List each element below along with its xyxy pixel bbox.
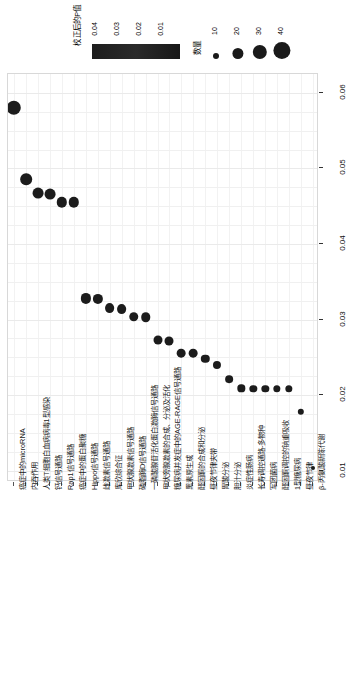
data-point bbox=[44, 189, 55, 200]
size-legend-label: 30 bbox=[255, 18, 265, 44]
data-point bbox=[93, 294, 103, 304]
x-axis-category-label: 军团菌病 bbox=[267, 462, 278, 490]
gridline-horizontal bbox=[8, 376, 317, 377]
y-axis-tick-mark bbox=[319, 167, 323, 168]
gridline-vertical bbox=[62, 74, 63, 480]
x-axis-category-label: 糖尿病并发症中的AGE-RAGE信号通路 bbox=[171, 367, 182, 490]
size-legend-dot bbox=[232, 48, 243, 59]
data-point bbox=[285, 385, 292, 392]
gridline-horizontal bbox=[8, 168, 317, 169]
gridline-vertical bbox=[26, 74, 27, 480]
y-axis-tick-mark bbox=[319, 319, 323, 320]
gridline-vertical bbox=[38, 74, 39, 480]
x-axis-category-label: 癌症中的microRNA bbox=[16, 428, 27, 490]
x-axis-category-label: 一磷酸腺苷活化蛋白激酶信号通路 bbox=[148, 385, 159, 490]
gridline-vertical bbox=[205, 74, 206, 480]
x-axis-category-label: 黑素原生成 bbox=[183, 455, 194, 490]
x-axis-category-label: 醛固酮调控的钠重吸收 bbox=[279, 420, 290, 490]
gridline-vertical bbox=[217, 74, 218, 480]
data-point bbox=[238, 385, 245, 392]
size-legend: 数量 10203040 bbox=[188, 2, 308, 68]
gridline-horizontal bbox=[8, 112, 317, 113]
y-axis-tick-label: 0.02 bbox=[338, 374, 350, 414]
size-legend-title: 数量 bbox=[191, 29, 203, 67]
color-legend-tick: 0.03 bbox=[113, 14, 123, 44]
x-axis-category-label: 昼夜节律夹带 bbox=[207, 448, 218, 490]
x-axis-category-label: 甲状旁腺激素的合成、分泌及活化 bbox=[160, 385, 171, 490]
y-axis-tick-mark bbox=[319, 243, 323, 244]
x-axis-category-label: β-丙氨酸新陈代谢 bbox=[315, 434, 326, 490]
gridline-horizontal bbox=[8, 187, 317, 188]
x-axis-category-label: 昼夜节律 bbox=[303, 462, 314, 490]
x-axis-category-label: 醛固酮的合成和分泌 bbox=[195, 427, 206, 490]
y-axis-tick-label: 0.06 bbox=[338, 72, 350, 112]
gridline-horizontal bbox=[8, 301, 317, 302]
data-point bbox=[7, 101, 21, 115]
x-axis-category-label: Hippo信号通路 bbox=[88, 443, 99, 490]
data-point bbox=[225, 375, 233, 383]
data-point bbox=[177, 348, 186, 357]
size-legend-dot bbox=[253, 45, 267, 59]
data-point bbox=[117, 304, 127, 314]
data-point bbox=[201, 355, 209, 363]
gridline-horizontal bbox=[8, 320, 317, 321]
legend-strip: 校正后的P值 0.040.030.020.01 数量 10203040 bbox=[0, 0, 359, 72]
data-point bbox=[141, 313, 151, 323]
gridline-horizontal bbox=[8, 244, 317, 245]
data-point bbox=[105, 303, 115, 313]
gridline-vertical bbox=[241, 74, 242, 480]
data-point bbox=[273, 385, 280, 392]
color-legend-tick: 0.02 bbox=[135, 14, 145, 44]
gridline-vertical bbox=[110, 74, 111, 480]
gridline-horizontal bbox=[8, 150, 317, 151]
data-point bbox=[81, 293, 91, 303]
data-point bbox=[189, 348, 198, 357]
x-axis-category-label: 胆汁分泌 bbox=[231, 462, 242, 490]
color-legend-gradient-bar bbox=[92, 44, 180, 59]
gridline-vertical bbox=[122, 74, 123, 480]
gridline-vertical bbox=[193, 74, 194, 480]
gridline-vertical bbox=[313, 74, 314, 480]
x-axis-category-label: 甲状腺激素信号通路 bbox=[124, 427, 135, 490]
gridline-horizontal bbox=[8, 93, 317, 94]
x-axis-category-label: 钙信号通路 bbox=[52, 455, 63, 490]
x-axis-category-label: 内吞作用 bbox=[28, 462, 39, 490]
x-axis-category-label: 1型糖尿病 bbox=[291, 458, 302, 490]
gridline-horizontal bbox=[8, 282, 317, 283]
data-point bbox=[262, 385, 269, 392]
size-legend-dot bbox=[273, 42, 290, 59]
gridline-horizontal bbox=[8, 225, 317, 226]
gridline-horizontal bbox=[8, 206, 317, 207]
x-axis-category-label: Rap1信号通路 bbox=[64, 444, 75, 490]
x-axis-category-label: 胃酸分泌 bbox=[219, 462, 230, 490]
y-axis-tick-label: 0.05 bbox=[338, 147, 350, 187]
x-axis-tick-mark bbox=[13, 482, 14, 486]
y-axis-tick-mark bbox=[319, 92, 323, 93]
gridline-horizontal bbox=[8, 131, 317, 132]
color-legend-title: 校正后的P值 bbox=[71, 0, 85, 55]
color-legend-tick: 0.01 bbox=[157, 14, 167, 44]
y-axis-tick-label: 0.01 bbox=[338, 450, 350, 490]
gridline-vertical bbox=[253, 74, 254, 480]
gridline-vertical bbox=[265, 74, 266, 480]
gridline-vertical bbox=[229, 74, 230, 480]
x-axis-category-label: 磷脂酶D信号通路 bbox=[136, 436, 147, 490]
data-point bbox=[129, 312, 139, 322]
gridline-vertical bbox=[146, 74, 147, 480]
color-legend-tick: 0.04 bbox=[91, 14, 101, 44]
x-axis-category-label: 炎症性肠病 bbox=[243, 455, 254, 490]
data-point bbox=[32, 188, 43, 199]
gridline-horizontal bbox=[8, 357, 317, 358]
x-axis-category-label: 雌激素信号通路 bbox=[100, 441, 111, 490]
y-axis-tick-label: 0.04 bbox=[338, 223, 350, 263]
data-point bbox=[153, 335, 162, 344]
x-axis-category-label: 长寿调控通路-多物种 bbox=[255, 425, 266, 490]
x-axis-category-label: 库欣综合征 bbox=[112, 455, 123, 490]
gridline-vertical bbox=[301, 74, 302, 480]
data-point bbox=[250, 385, 257, 392]
data-point bbox=[165, 336, 174, 345]
y-axis-tick-label: 0.03 bbox=[338, 299, 350, 339]
size-legend-label: 40 bbox=[277, 18, 287, 44]
gridline-horizontal bbox=[8, 263, 317, 264]
gridline-vertical bbox=[14, 74, 15, 480]
